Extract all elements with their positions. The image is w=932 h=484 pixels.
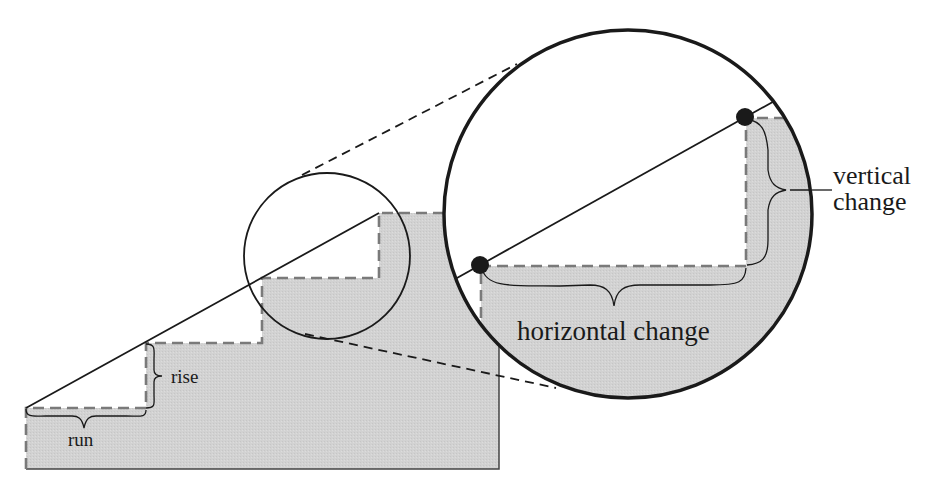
slope-diagram: rise run horizontal change vertical chan… [0, 0, 932, 484]
vertical-change-label-line1: vertical [833, 161, 911, 190]
horizontal-change-label: horizontal change [517, 316, 710, 346]
vertical-change-label: vertical change [833, 161, 917, 216]
point-lower [471, 256, 489, 274]
run-label: run [68, 429, 94, 450]
vertical-change-label-line2: change [833, 187, 907, 216]
rise-label: rise [171, 366, 198, 387]
point-upper [736, 108, 754, 126]
